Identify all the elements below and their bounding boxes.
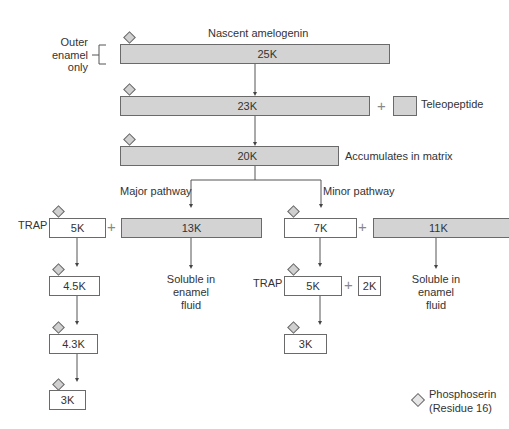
node-4-3k: 4.3K [49,334,98,354]
node-2k-label: 2K [363,280,376,292]
legend-line-2: (Residue 16) [429,401,496,415]
plus-sign: + [107,219,116,234]
soluble-line-1: Soluble in [406,273,466,286]
outer-enamel-line-3: only [40,61,88,74]
node-23k: 23K [120,96,370,116]
legend-line-1: Phosphoserin [429,387,496,401]
legend-text: Phosphoserin (Residue 16) [429,387,496,415]
node-major-5k: 5K [49,218,106,238]
soluble-line-3: fluid [406,299,466,312]
node-25k-label: 25K [257,48,277,60]
soluble-text-major: Soluble in enamel fluid [161,273,221,312]
node-7k: 7K [284,218,357,238]
minor-pathway-label: Minor pathway [323,185,395,197]
plus-sign: + [377,98,386,113]
soluble-text-minor: Soluble in enamel fluid [406,273,466,312]
outer-enamel-line-2: enamel [40,49,88,62]
node-20k: 20K [120,146,339,166]
node-11k-label: 11K [429,222,448,234]
outer-enamel-label: Outer enamel only [40,36,88,74]
soluble-line-1: Soluble in [161,273,221,286]
plus-sign: + [358,219,367,234]
node-2k: 2K [358,276,381,296]
major-pathway-label: Major pathway [120,185,192,197]
node-25k: 25K [120,44,390,64]
node-7k-label: 7K [314,222,327,234]
soluble-line-2: enamel [406,286,466,299]
node-13k-label: 13K [182,222,202,234]
trap-label: TRAP [253,277,282,289]
node-minor-3k: 3K [284,334,327,354]
node-minor-5k-label: 5K [306,280,319,292]
diagram-title: Nascent amelogenin [208,27,308,39]
node-major-3k-label: 3K [61,394,74,406]
node-20k-label: 20K [237,150,257,162]
node-4-3k-label: 4.3K [62,338,85,350]
plus-sign: + [344,277,353,292]
teleopeptide-caption: Teleopeptide [421,98,483,110]
node-major-3k: 3K [49,390,86,410]
accumulates-caption: Accumulates in matrix [345,150,453,162]
node-4-5k: 4.5K [49,276,100,296]
node-major-5k-label: 5K [71,222,84,234]
soluble-line-2: enamel [161,286,221,299]
trap-label: TRAP [18,219,47,231]
node-13k: 13K [121,218,262,238]
node-4-5k-label: 4.5K [63,280,86,292]
node-23k-label: 23K [237,100,257,112]
node-minor-5k: 5K [284,276,342,296]
node-minor-3k-label: 3K [299,338,312,350]
outer-enamel-line-1: Outer [40,36,88,49]
node-11k: 11K [373,218,509,238]
node-teleopeptide [393,96,417,116]
soluble-line-3: fluid [161,299,221,312]
